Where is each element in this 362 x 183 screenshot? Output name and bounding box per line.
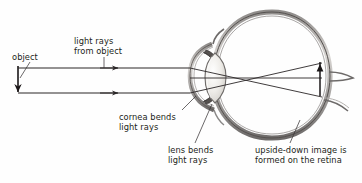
label-cornea-bends-light-rays: cornea bends light rays (119, 112, 176, 132)
leader-cornea (182, 96, 196, 110)
light-rays (18, 63, 322, 97)
leader-object (20, 62, 30, 78)
label-upside-down-image: upside-down image is formed on the retin… (255, 145, 347, 165)
diagram-canvas: object light rays from object cornea ben… (0, 0, 362, 183)
retina (218, 16, 326, 134)
label-light-rays-from-object: light rays from object (74, 36, 122, 56)
label-object: object (12, 52, 38, 62)
eyeball-outline (214, 12, 330, 138)
inverted-image-arrow (317, 62, 324, 96)
label-lens-bends-light-rays: lens bends light rays (168, 145, 213, 165)
leader-lens (195, 104, 212, 143)
